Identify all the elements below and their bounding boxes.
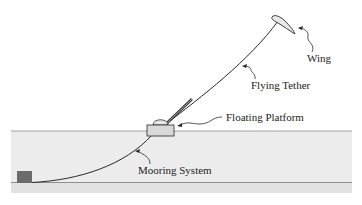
wing-arrowhead <box>298 26 303 30</box>
tether-leader-arrow <box>244 66 255 79</box>
platform-arrowhead <box>177 123 182 127</box>
platform-boom-inner <box>166 99 192 124</box>
tether-arrowhead <box>242 64 247 68</box>
flying-tether-label: Flying Tether <box>251 80 310 91</box>
seabed-band <box>11 182 352 193</box>
platform-dome <box>153 120 168 125</box>
floating-platform <box>147 125 174 136</box>
wing-leader-arrow <box>299 28 313 52</box>
mooring-system-label: Mooring System <box>138 165 212 176</box>
anchor-block <box>17 171 32 183</box>
platform-leader-arrow <box>180 117 222 125</box>
floating-platform-label: Floating Platform <box>226 112 304 123</box>
wing-label: Wing <box>307 53 331 64</box>
